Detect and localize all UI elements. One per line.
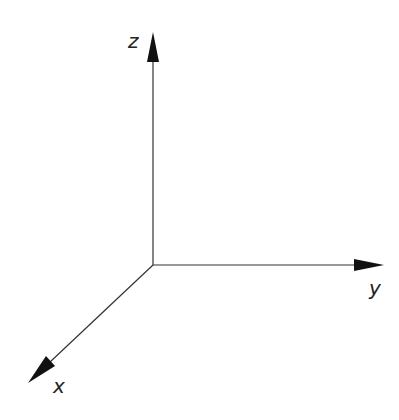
y-axis: y: [153, 259, 384, 300]
z-axis: z: [127, 29, 159, 265]
x-axis-label: x: [52, 374, 65, 398]
x-arrowhead-icon: [28, 356, 55, 383]
y-arrowhead-icon: [354, 259, 384, 271]
y-axis-label: y: [368, 276, 382, 300]
z-arrowhead-icon: [147, 32, 159, 62]
axes-diagram: z y x: [0, 0, 399, 420]
x-axis: x: [28, 265, 153, 398]
z-axis-label: z: [127, 29, 139, 53]
